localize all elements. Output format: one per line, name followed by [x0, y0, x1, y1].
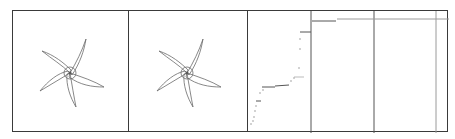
step-plot: [248, 11, 449, 133]
step-plot-panel: [247, 10, 448, 132]
pinwheel-curve-icon: [129, 11, 249, 133]
figure-panel-b: [128, 10, 248, 132]
pinwheel-curve-icon: [13, 11, 130, 133]
figure-panel-a: [12, 10, 129, 132]
